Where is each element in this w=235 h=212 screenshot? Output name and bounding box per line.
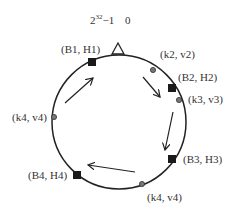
node-b1-icon [88,58,96,66]
key-k3-label: (k3, v3) [188,93,223,106]
key-k2-label: (k2, v2) [160,48,195,61]
node-b2-label: (B2, H2) [178,71,217,84]
key-k4-bottom-label: (k4, v4) [147,191,182,204]
arrow-k4-to-b4 [88,165,135,172]
arrow-k3-to-b3 [165,112,173,150]
key-k4-bottom-icon [139,181,144,186]
node-b1-label: (B1, H1) [61,43,100,56]
ring-zero-label: 0 [125,14,131,26]
key-k4-left-label: (k4, v4) [12,111,47,124]
key-k3-icon [176,97,181,102]
node-b4-icon [73,171,81,179]
ring-max-label: 232−1 [90,13,114,26]
key-k2-icon [150,67,155,72]
node-b4-label: (B4, H4) [28,169,67,182]
hash-ring [52,55,186,189]
origin-marker-icon [112,43,124,54]
key-k4-left-icon [51,114,56,119]
arrow-k4-to-b1 [65,78,93,103]
node-b2-icon [168,84,176,92]
node-b3-label: (B3, H3) [183,153,222,166]
node-b3-icon [168,155,176,163]
hash-ring-diagram: 232−1 0 (B1, H1) (B2, H2) (B3, H3) (B4, … [0,0,235,212]
arrow-k2-to-b2 [143,77,160,97]
